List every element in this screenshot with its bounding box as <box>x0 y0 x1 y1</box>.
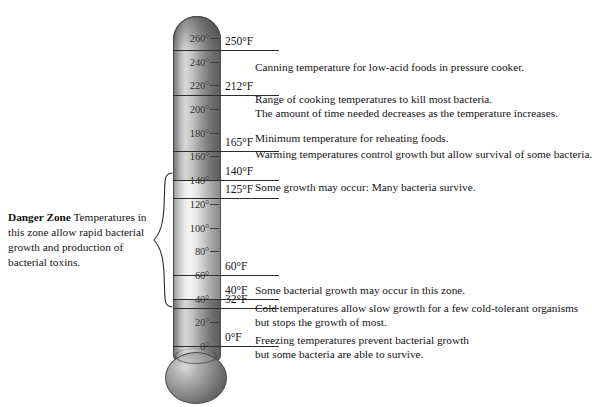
thermometer-bulb <box>165 352 229 406</box>
scale-tick <box>210 156 219 157</box>
scale-tick-label: 260° <box>190 33 209 44</box>
reference-line-r250 <box>173 50 279 51</box>
reference-label-r165: 165°F <box>225 136 253 148</box>
reference-label-r60: 60°F <box>225 260 248 272</box>
note-canning: Canning temperature for low-acid foods i… <box>255 60 524 75</box>
note-cooking-line1: Range of cooking temperatures to kill mo… <box>255 92 492 107</box>
reference-label-r125: 125°F <box>225 183 253 195</box>
scale-tick-label: 220° <box>190 80 209 91</box>
thermometer-tube: 260°240°220°200°180°160°140°120°100°80°6… <box>173 16 221 361</box>
reference-label-r212: 212°F <box>225 80 253 92</box>
reference-label-r250: 250°F <box>225 35 253 47</box>
note-freezing-line2: but some bacteria are able to survive. <box>255 347 423 362</box>
note-cold-line1: Cold temperatures allow slow growth for … <box>255 301 578 316</box>
note-cold-line2: but stops the growth of most. <box>255 315 387 330</box>
danger-zone-brace <box>152 172 174 308</box>
scale-tick <box>210 62 219 63</box>
scale-tick <box>210 322 219 323</box>
scale-tick <box>210 251 219 252</box>
scale-tick-label: 100° <box>190 222 209 233</box>
scale-tick-label: 180° <box>190 127 209 138</box>
bulb-neck-ring <box>175 348 217 364</box>
note-reheating-line2: Warming temperatures control growth but … <box>255 147 592 162</box>
note-freezing-line1: Freezing temperatures prevent bacterial … <box>255 333 469 348</box>
reference-label-r32: 32°F <box>225 293 248 305</box>
scale-tick <box>210 204 219 205</box>
note-cooking-line2: The amount of time needed decreases as t… <box>255 106 558 121</box>
scale-tick-label: 80° <box>195 246 209 257</box>
scale-tick <box>210 133 219 134</box>
scale-tick-label: 120° <box>190 198 209 209</box>
scale-tick <box>210 38 219 39</box>
scale-tick-label: 200° <box>190 104 209 115</box>
scale-tick <box>210 228 219 229</box>
scale-tick-label: 160° <box>190 151 209 162</box>
reference-label-r140: 140°F <box>225 165 253 177</box>
danger-zone-caption: Danger Zone Temperatures in this zone al… <box>8 210 158 270</box>
scale-tick <box>210 85 219 86</box>
reference-line-r60 <box>173 275 279 276</box>
reference-line-r125 <box>173 198 279 199</box>
scale-tick <box>210 109 219 110</box>
note-bacterial-growth: Some bacterial growth may occur in this … <box>255 283 465 298</box>
note-some-growth: Some growth may occur: Many bacteria sur… <box>255 180 476 195</box>
note-reheating-line1: Minimum temperature for reheating foods. <box>255 131 449 146</box>
danger-zone-title: Danger Zone <box>8 211 71 223</box>
reference-label-r0: 0°F <box>225 331 242 343</box>
scale-tick-label: 20° <box>195 317 209 328</box>
scale-tick-label: 240° <box>190 56 209 67</box>
